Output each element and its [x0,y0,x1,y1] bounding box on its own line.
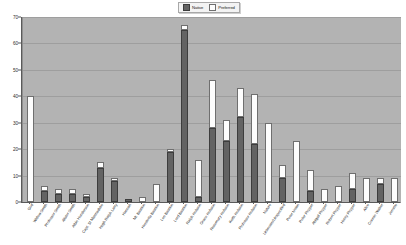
bar-segment-preferred[interactable] [321,189,328,202]
bar-segment-preferred[interactable] [251,94,258,144]
bar-segment-preferred[interactable] [195,160,202,197]
bar-series-group [23,17,401,202]
bar-group[interactable] [83,17,90,202]
bar-group[interactable] [251,17,258,202]
bar-segment-preferred[interactable] [335,186,342,202]
bar-segment-preferred[interactable] [55,189,62,194]
bar-segment-preferred[interactable] [181,25,188,30]
bar-segment-native[interactable] [41,191,48,202]
chart-legend: Native Preferred [178,2,240,13]
bar-segment-native[interactable] [97,168,104,202]
bar-segment-native[interactable] [251,144,258,202]
bar-group[interactable] [363,17,370,202]
bar-segment-preferred[interactable] [237,88,244,117]
bar-segment-preferred[interactable] [167,149,174,152]
bar-group[interactable] [27,17,34,202]
bar-group[interactable] [139,17,146,202]
bar-segment-preferred[interactable] [27,96,34,202]
legend-item-native[interactable]: Native [183,4,203,11]
x-axis-labels: GodWidow SmithProfessor SmithAlister Smi… [22,203,400,245]
bar-segment-preferred[interactable] [307,170,314,191]
legend-swatch-native [183,4,190,11]
bar-segment-preferred[interactable] [265,123,272,202]
x-tick-label: Henry Pepper [340,203,357,225]
bar-group[interactable] [265,17,272,202]
bar-group[interactable] [321,17,328,202]
bar-group[interactable] [181,17,188,202]
bar-segment-native[interactable] [181,30,188,202]
bar-segment-native[interactable] [279,178,286,202]
legend-label-preferred: Preferred [218,5,235,11]
x-tick-label: Nature [263,203,273,215]
x-tick-label: Hannah [122,203,133,217]
bar-segment-preferred[interactable] [377,178,384,183]
bar-segment-preferred[interactable] [83,194,90,197]
bar-group[interactable] [41,17,48,202]
x-tick-label: Alice [362,203,370,212]
bar-segment-native[interactable] [69,194,76,202]
bar-group[interactable] [349,17,356,202]
bar-group[interactable] [153,17,160,202]
bar-group[interactable] [223,17,230,202]
bar-segment-preferred[interactable] [279,165,286,178]
bar-segment-preferred[interactable] [209,80,216,128]
bar-segment-native[interactable] [167,152,174,202]
legend-swatch-preferred [209,4,216,11]
x-tick-label: God [27,203,35,211]
bar-segment-preferred[interactable] [349,173,356,189]
bar-group[interactable] [335,17,342,202]
legend-item-preferred[interactable]: Preferred [209,4,235,11]
bar-segment-native[interactable] [307,191,314,202]
bar-group[interactable] [167,17,174,202]
bar-segment-preferred[interactable] [41,186,48,191]
bar-group[interactable] [55,17,62,202]
bar-group[interactable] [279,17,286,202]
bar-segment-native[interactable] [209,128,216,202]
legend-label-native: Native [192,5,203,11]
bar-group[interactable] [237,17,244,202]
bar-segment-native[interactable] [237,117,244,202]
bar-segment-preferred[interactable] [223,120,230,141]
bar-segment-preferred[interactable] [293,141,300,202]
chart-container: Native Preferred 010203040506070 GodWido… [0,0,406,245]
bar-group[interactable] [111,17,118,202]
bar-segment-preferred[interactable] [111,178,118,181]
bar-segment-native[interactable] [55,194,62,202]
bar-group[interactable] [97,17,104,202]
bar-segment-native[interactable] [349,189,356,202]
bar-group[interactable] [293,17,300,202]
bar-group[interactable] [307,17,314,202]
bar-segment-preferred[interactable] [69,189,76,194]
bar-segment-native[interactable] [223,141,230,202]
bar-group[interactable] [391,17,398,202]
bar-segment-native[interactable] [377,184,384,203]
bar-group[interactable] [69,17,76,202]
bar-segment-native[interactable] [111,181,118,202]
bar-segment-preferred[interactable] [391,178,398,202]
bar-segment-preferred[interactable] [97,162,104,167]
bar-group[interactable] [209,17,216,202]
plot-area [22,17,401,203]
bar-group[interactable] [195,17,202,202]
bar-group[interactable] [125,17,132,202]
bar-segment-preferred[interactable] [153,184,160,203]
x-tick-label: Jerome [388,203,399,216]
y-axis: 010203040506070 [0,17,18,202]
bar-group[interactable] [377,17,384,202]
bar-segment-preferred[interactable] [363,178,370,202]
